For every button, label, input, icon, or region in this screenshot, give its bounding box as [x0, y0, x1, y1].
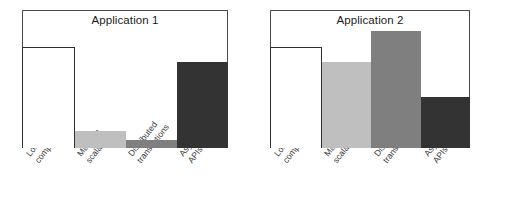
bar-series-2	[270, 10, 470, 148]
bar-chart-figure: Application 1 Loosely coupled components…	[0, 0, 516, 224]
bar-asynchorous-apis-1	[177, 62, 228, 148]
x-axis-labels-1: Loosely coupled components Massive scala…	[22, 150, 228, 224]
chart-panel-application-1: Application 1	[22, 10, 228, 148]
chart-panel-application-2: Application 2	[270, 10, 470, 148]
bar-distributed-transactions-1	[126, 140, 177, 148]
bar-loosely-coupled-components-1	[22, 47, 75, 148]
bar-distributed-transactions-2	[371, 31, 421, 148]
x-axis-labels-2: Loosely coupled components Massive scala…	[270, 150, 470, 224]
bar-asynchorous-apis-2	[421, 97, 471, 148]
chart-title-2: Application 2	[270, 14, 470, 26]
bar-loosely-coupled-components-2	[270, 47, 322, 148]
bar-massive-scalability-2	[322, 62, 372, 148]
chart-title-1: Application 1	[22, 14, 228, 26]
bar-series-1	[22, 10, 228, 148]
bar-massive-scalability-1	[75, 131, 126, 148]
